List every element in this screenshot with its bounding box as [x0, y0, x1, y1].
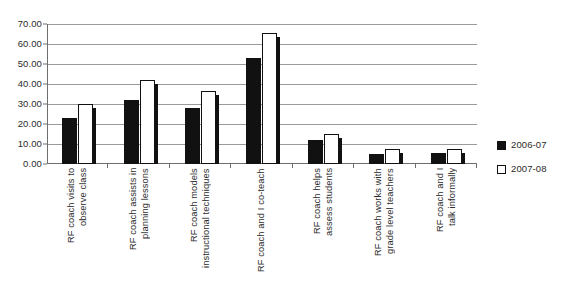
- x-axis-label: RF coach helpsassess students: [312, 168, 335, 283]
- bar-chart: 0.0010.0020.0030.0040.0050.0060.0070.00 …: [0, 0, 570, 289]
- legend-label-series-1: 2006-07: [511, 140, 547, 150]
- legend-swatch-icon-series-1: [497, 141, 506, 150]
- bar-series-1: [124, 100, 139, 164]
- x-axis-label-cell: RF coach and I co-teach: [231, 168, 292, 283]
- bar-series-1: [185, 108, 200, 164]
- bar-series-1: [62, 118, 77, 164]
- bar-group: [354, 24, 415, 164]
- x-axis-label-cell: RF coach and Italk informally: [416, 168, 477, 283]
- x-axis-category-labels: RF coach visits toobserve classRF coach …: [47, 168, 477, 283]
- bar-series-1: [246, 58, 261, 164]
- y-axis-tick-label: 60.00: [18, 39, 42, 49]
- y-axis-tick-label: 10.00: [18, 139, 42, 149]
- bar-series-2: [78, 104, 93, 164]
- x-axis-label: RF coach works withgrade level teachers: [373, 168, 396, 283]
- bar-group: [170, 24, 231, 164]
- x-axis-label: RF coach and Italk informally: [435, 168, 458, 283]
- bar-series-2: [447, 149, 462, 164]
- bar-series-2: [385, 149, 400, 164]
- y-axis-tick-label: 40.00: [18, 79, 42, 89]
- bar-series-1: [431, 153, 446, 164]
- x-axis-label-line: planning lessons: [139, 168, 151, 283]
- x-axis-label-cell: RF coach assists inplanning lessons: [108, 168, 169, 283]
- legend-item-2006-07: 2006-07: [497, 140, 567, 150]
- x-axis-label-line: RF coach helps: [312, 168, 324, 283]
- plot-area: 0.0010.0020.0030.0040.0050.0060.0070.00: [47, 24, 477, 164]
- x-axis-label-line: RF coach and I co-teach: [256, 168, 268, 283]
- legend-label-series-2: 2007-08: [511, 164, 547, 174]
- x-axis-label-line: RF coach and I: [435, 168, 447, 283]
- x-axis-label-cell: RF coach visits toobserve class: [47, 168, 108, 283]
- y-axis-tick-label: 20.00: [18, 119, 42, 129]
- x-axis-label-cell: RF coach works withgrade level teachers: [354, 168, 415, 283]
- x-axis-label-line: assess students: [323, 168, 335, 283]
- bar-series-2: [324, 134, 339, 164]
- x-axis-label-line: RF coach models: [189, 168, 201, 283]
- bar-series-2: [140, 80, 155, 164]
- x-axis-label: RF coach modelsinstructional techniques: [189, 168, 212, 283]
- bar-series-1: [369, 154, 384, 164]
- bar-series-1: [308, 140, 323, 164]
- bar-group: [416, 24, 477, 164]
- legend-swatch-icon-series-2: [497, 165, 506, 174]
- bar-series-2: [262, 33, 277, 164]
- x-axis-label-line: RF coach works with: [373, 168, 385, 283]
- x-axis-label: RF coach and I co-teach: [256, 168, 268, 283]
- legend-item-2007-08: 2007-08: [497, 164, 567, 174]
- x-axis-label-cell: RF coach helpsassess students: [293, 168, 354, 283]
- bar-group: [108, 24, 169, 164]
- x-axis-label-line: talk informally: [446, 168, 458, 283]
- legend: 2006-07 2007-08: [497, 140, 567, 188]
- bar-groups: [47, 24, 477, 164]
- x-axis-label-line: instructional techniques: [201, 168, 213, 283]
- x-axis-label: RF coach visits toobserve class: [66, 168, 89, 283]
- x-axis-label-line: grade level teachers: [385, 168, 397, 283]
- x-axis-label-line: RF coach visits to: [66, 168, 78, 283]
- y-axis-tick-label: 30.00: [18, 99, 42, 109]
- bar-group: [231, 24, 292, 164]
- bar-group: [293, 24, 354, 164]
- x-axis-label: RF coach assists inplanning lessons: [128, 168, 151, 283]
- bar-group: [47, 24, 108, 164]
- bar-series-2: [201, 91, 216, 164]
- y-axis-tick-label: 0.00: [23, 159, 42, 169]
- y-axis-tick-label: 50.00: [18, 59, 42, 69]
- x-axis-label-cell: RF coach modelsinstructional techniques: [170, 168, 231, 283]
- x-axis-label-line: observe class: [78, 168, 90, 283]
- y-axis-tick-label: 70.00: [18, 19, 42, 29]
- x-axis-label-line: RF coach assists in: [128, 168, 140, 283]
